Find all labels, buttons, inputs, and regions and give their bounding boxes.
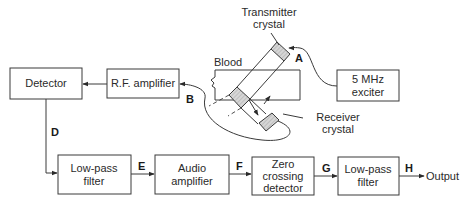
lpf2-label-line2: filter [358, 176, 379, 188]
exciter-block: 5 MHz exciter [337, 70, 399, 101]
node-B: B [186, 93, 194, 105]
rf-amplifier-block: R.F. amplifier [107, 69, 179, 98]
receiver-crystal [259, 113, 279, 131]
receiver-label-line1: Receiver [316, 111, 360, 123]
rf-amplifier-label: R.F. amplifier [111, 77, 176, 89]
audio-amplifier-block: Audio amplifier [155, 155, 229, 194]
detector-block: Detector [10, 68, 82, 99]
zero-label-line2: crossing [263, 170, 304, 182]
exciter-label-line1: 5 MHz [352, 73, 384, 85]
lowpass-filter-1-block: Low-pass filter [58, 155, 131, 194]
zero-crossing-detector-block: Zero crossing detector [252, 157, 314, 195]
node-A: A [295, 52, 303, 64]
exciter-label-line2: exciter [352, 86, 385, 98]
receiver-leader [283, 114, 303, 118]
probe-mid-section [229, 87, 250, 108]
output-label: Output [426, 170, 459, 182]
transmitter-leader [271, 33, 279, 45]
audio-label-line1: Audio [178, 162, 206, 174]
node-G: G [322, 162, 331, 174]
lpf2-label-line1: Low-pass [344, 163, 392, 175]
transmitter-crystal [271, 42, 290, 61]
zero-label-line3: detector [263, 182, 303, 194]
lpf1-label-line2: filter [84, 175, 105, 187]
doppler-flowmeter-diagram: Detector R.F. amplifier 5 MHz exciter Bl… [0, 0, 463, 205]
blood-label: Blood [214, 56, 242, 68]
zero-label-line1: Zero [272, 158, 295, 170]
audio-label-line2: amplifier [171, 175, 213, 187]
node-H: H [405, 162, 413, 174]
lpf1-label-line1: Low-pass [70, 162, 118, 174]
node-F: F [236, 160, 243, 172]
receiver-label-line2: crystal [322, 123, 354, 135]
detector-label: Detector [25, 77, 67, 89]
transmitter-label-line1: Transmitter [241, 6, 297, 18]
node-D: D [51, 126, 59, 138]
transmitter-label-line2: crystal [253, 18, 285, 30]
lowpass-filter-2-block: Low-pass filter [338, 157, 399, 195]
node-E: E [138, 160, 145, 172]
